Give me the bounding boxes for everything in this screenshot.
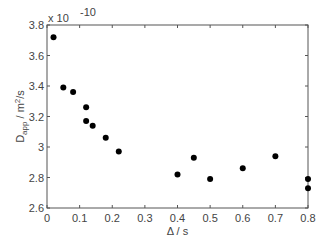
y-axis-label: Dapp / m2/s [13,90,29,143]
data-point [103,135,109,141]
data-point [116,149,122,155]
y-tick-label: 3.4 [29,80,44,92]
data-point [207,176,213,182]
data-point [272,153,278,159]
data-point [175,171,181,177]
x-tick-label: 0.6 [235,212,250,224]
y-tick-label: 3 [38,141,44,153]
data-point [240,165,246,171]
y-tick-label: 3.2 [29,111,44,123]
y-multiplier: x 10 [48,12,69,24]
y-tick-label: 3.8 [29,19,44,31]
data-point [191,155,197,161]
data-point [70,89,76,95]
x-tick-label: 0.4 [170,212,185,224]
y-tick-label: 3.6 [29,50,44,62]
data-point [90,123,96,129]
x-tick-label: 0.8 [300,212,315,224]
data-point [305,185,311,191]
data-point [305,176,311,182]
x-tick-label: 0.2 [105,212,120,224]
x-tick-label: 0.3 [137,212,152,224]
y-multiplier-exponent: -10 [80,6,96,18]
y-tick-label: 2.6 [29,202,44,214]
x-tick-label: 0 [44,212,50,224]
data-point [60,85,66,91]
data-point [83,104,89,110]
x-tick-label: 0.1 [72,212,87,224]
chart: 00.10.20.30.40.50.60.70.82.62.833.23.43.… [0,0,329,241]
data-point [51,34,57,40]
x-tick-label: 0.7 [268,212,283,224]
x-tick-label: 0.5 [202,212,217,224]
data-point [83,118,89,124]
y-tick-label: 2.8 [29,172,44,184]
plot-area [47,25,308,208]
x-axis-label: Δ / s [167,225,189,237]
